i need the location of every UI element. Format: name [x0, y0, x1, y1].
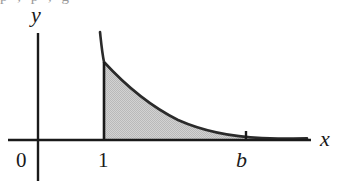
- shaded-area-region: [104, 62, 246, 140]
- plot-canvas: [0, 0, 341, 192]
- figure-container: p , p , g y x 0 1 b: [0, 0, 341, 192]
- tick-label-upper-limit: b: [236, 149, 247, 171]
- x-axis-label: x: [320, 128, 330, 150]
- tick-label-lower-limit: 1: [98, 150, 109, 171]
- origin-label: 0: [16, 150, 27, 171]
- y-axis-label: y: [31, 4, 41, 26]
